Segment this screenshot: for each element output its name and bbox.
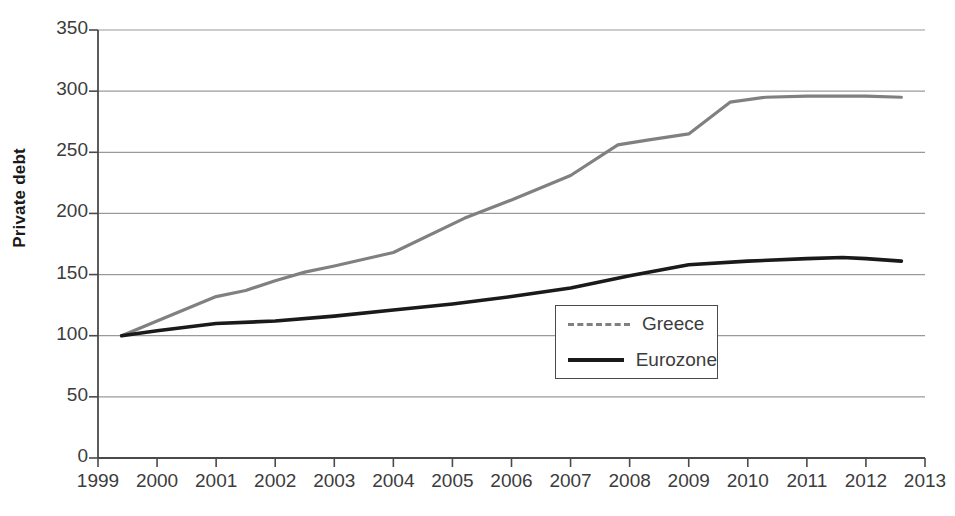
legend-entry-greece: Greece [556, 306, 717, 342]
legend-entry-eurozone: Eurozone [556, 342, 717, 378]
gridlines [98, 30, 925, 397]
series-line-eurozone [122, 257, 902, 335]
chart-figure: Private debt 050100150200250300350 19992… [0, 0, 955, 516]
plot-area [0, 0, 955, 516]
legend-label-eurozone: Eurozone [636, 349, 717, 371]
legend-swatch-eurozone [568, 358, 624, 362]
legend-label-greece: Greece [642, 313, 704, 335]
legend-box: Greece Eurozone [555, 305, 718, 379]
legend-swatch-greece [568, 323, 630, 326]
series-line-greece [122, 96, 902, 336]
